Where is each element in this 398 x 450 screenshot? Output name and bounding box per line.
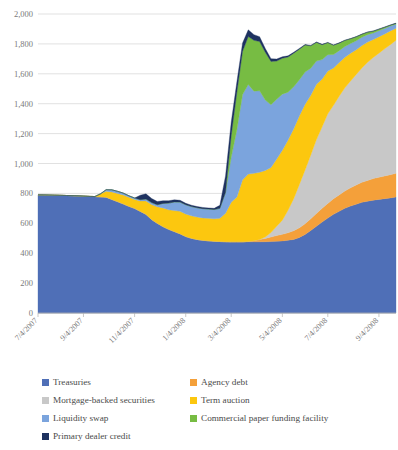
x-axis-tick-label: 7/4/2008	[303, 316, 329, 342]
legend-swatch-icon	[42, 433, 49, 440]
legend-swatch-icon	[190, 397, 197, 404]
chart-plot-area: 02004006008001,0001,2001,4001,6001,8002,…	[0, 0, 398, 360]
legend-item-label: Mortgage-backed securities	[53, 396, 155, 405]
x-axis-tick-label: 5/4/2008	[257, 316, 283, 342]
y-axis-tick-label: 1,600	[14, 69, 33, 79]
legend-item[interactable]: Mortgage-backed securities	[42, 396, 190, 405]
legend-swatch-icon	[42, 379, 49, 386]
y-axis-tick-label: 800	[20, 188, 33, 198]
y-axis-tick-label: 1,800	[14, 39, 33, 49]
legend-item-label: Commercial paper funding facility	[201, 414, 328, 423]
y-axis-tick-label: 1,000	[14, 159, 33, 169]
y-axis-tick-label: 200	[20, 278, 33, 288]
legend-item[interactable]: Liquidity swap	[42, 414, 190, 423]
legend-item[interactable]: Commercial paper funding facility	[190, 414, 398, 423]
y-axis-tick-label: 600	[20, 218, 33, 228]
x-axis-tick-label: 9/4/2008	[354, 316, 380, 342]
x-axis-tick-label: 3/4/2008	[206, 316, 232, 342]
legend-item[interactable]: Treasuries	[42, 378, 190, 387]
x-axis-tick-label: 1/4/2008	[161, 316, 187, 342]
legend-swatch-icon	[42, 415, 49, 422]
legend-item[interactable]: Term auction	[190, 396, 398, 405]
x-axis-tick-label: 11/4/2007	[107, 316, 136, 345]
legend-item[interactable]: Agency debt	[190, 378, 398, 387]
x-axis-tick-label: 9/4/2007	[58, 316, 84, 342]
legend-item[interactable]: Primary dealer credit	[42, 432, 190, 441]
legend-item-label: Liquidity swap	[53, 414, 108, 423]
y-axis-tick-label: 1,400	[14, 99, 33, 109]
legend-item-label: Treasuries	[53, 378, 91, 387]
legend-item-label: Agency debt	[201, 378, 248, 387]
legend-swatch-icon	[190, 379, 197, 386]
x-axis-tick-label: 7/4/2007	[13, 316, 39, 342]
legend-swatch-icon	[190, 415, 197, 422]
legend-item-label: Term auction	[201, 396, 250, 405]
chart-legend: TreasuriesAgency debtMortgage-backed sec…	[42, 374, 398, 446]
legend-swatch-icon	[42, 397, 49, 404]
y-axis-tick-label: 400	[20, 248, 33, 258]
y-axis-tick-label: 1,200	[14, 129, 33, 139]
legend-item-label: Primary dealer credit	[53, 432, 131, 441]
y-axis-tick-label: 2,000	[14, 9, 33, 19]
stacked-area-chart: 02004006008001,0001,2001,4001,6001,8002,…	[0, 0, 398, 450]
